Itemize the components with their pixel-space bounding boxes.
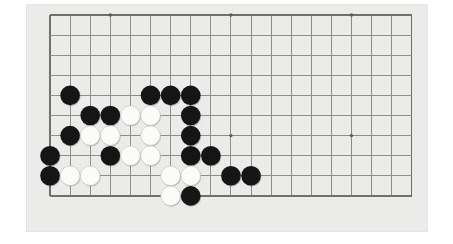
hoshi-top-left: [109, 13, 112, 16]
go-board[interactable]: [0, 0, 453, 244]
hoshi-right: [350, 134, 353, 137]
white-stone[interactable]: [141, 126, 161, 146]
white-stone[interactable]: [161, 186, 181, 206]
white-stone[interactable]: [80, 126, 100, 146]
black-stone[interactable]: [201, 146, 221, 166]
black-stone[interactable]: [181, 106, 201, 126]
white-stone[interactable]: [141, 106, 161, 126]
white-stone[interactable]: [161, 166, 181, 186]
black-stone[interactable]: [141, 86, 161, 106]
white-stone[interactable]: [181, 166, 201, 186]
black-stone[interactable]: [221, 166, 241, 186]
black-stone[interactable]: [181, 146, 201, 166]
black-stone[interactable]: [181, 186, 201, 206]
black-stone[interactable]: [80, 106, 100, 126]
black-stone[interactable]: [101, 146, 121, 166]
go-board-svg[interactable]: [0, 0, 453, 244]
white-stone[interactable]: [80, 166, 100, 186]
white-stone[interactable]: [121, 106, 141, 126]
screenshot-root: [0, 0, 453, 244]
black-stone[interactable]: [40, 166, 60, 186]
black-stone[interactable]: [60, 86, 80, 106]
black-stone[interactable]: [101, 106, 121, 126]
hoshi-center: [229, 134, 232, 137]
black-stone[interactable]: [181, 86, 201, 106]
white-stone[interactable]: [141, 146, 161, 166]
black-stone[interactable]: [181, 126, 201, 146]
black-stone[interactable]: [60, 126, 80, 146]
white-stone[interactable]: [121, 146, 141, 166]
black-stone[interactable]: [241, 166, 261, 186]
white-stone[interactable]: [60, 166, 80, 186]
white-stone[interactable]: [101, 126, 121, 146]
hoshi-top-right: [350, 13, 353, 16]
black-stone[interactable]: [40, 146, 60, 166]
hoshi-top-center: [229, 13, 232, 16]
black-stone[interactable]: [161, 86, 181, 106]
